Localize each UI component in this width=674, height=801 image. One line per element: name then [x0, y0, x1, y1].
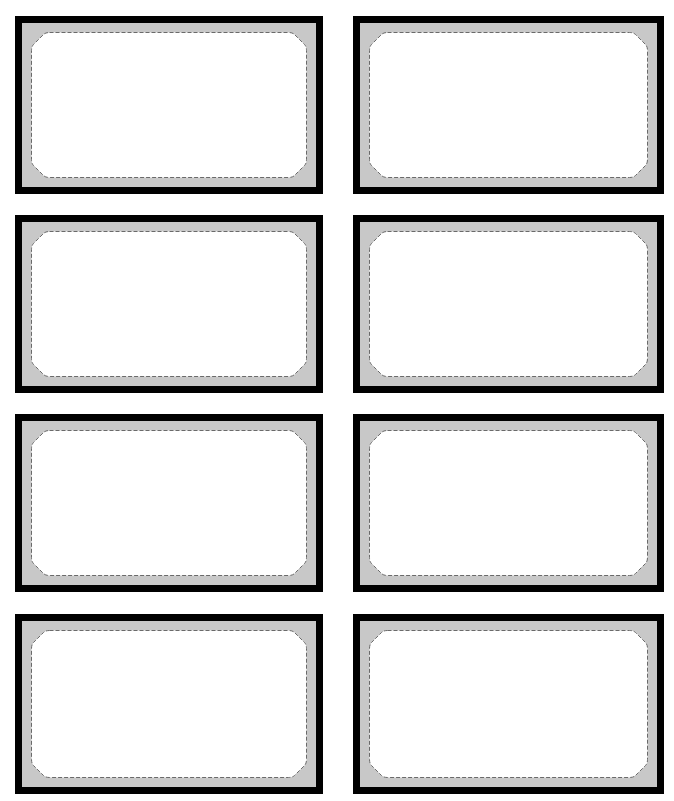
label-card-2	[353, 16, 664, 194]
label-text	[393, 255, 624, 353]
label-text	[393, 454, 624, 552]
label-card-4	[353, 215, 664, 393]
label-card-3	[15, 215, 323, 393]
label-text	[55, 654, 283, 754]
label-card-6	[353, 414, 664, 592]
label-card-8	[353, 614, 664, 794]
label-text	[55, 56, 283, 154]
label-text	[55, 255, 283, 353]
label-card-5	[15, 414, 323, 592]
label-text	[55, 454, 283, 552]
label-text	[393, 654, 624, 754]
label-sheet	[0, 0, 674, 801]
label-card-7	[15, 614, 323, 794]
label-card-1	[15, 16, 323, 194]
label-text	[393, 56, 624, 154]
